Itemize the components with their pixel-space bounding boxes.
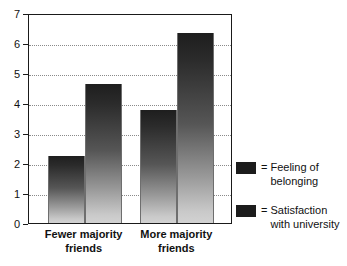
bar — [85, 84, 122, 224]
y-axis-tick-label: 7 — [14, 8, 23, 19]
legend-item: =Feeling of belonging — [236, 160, 347, 189]
bar-group-container — [29, 15, 231, 223]
y-axis: 76543210 — [0, 0, 28, 238]
legend-equals-sign: = — [261, 203, 267, 217]
bar — [140, 110, 177, 223]
y-axis-tick-label: 6 — [14, 38, 23, 49]
y-axis-tick-label: 1 — [14, 188, 23, 199]
y-axis-tick-label: 5 — [14, 68, 23, 79]
x-axis-labels: Fewer majorityfriendsMore majorityfriend… — [28, 228, 232, 266]
bar — [177, 33, 214, 223]
x-axis-label: More majorityfriends — [116, 228, 236, 256]
chart-legend: =Feeling of belonging=Satisfaction with … — [236, 160, 347, 245]
bar-chart-figure: 76543210 Fewer majorityfriendsMore major… — [0, 0, 347, 266]
legend-equals-sign: = — [261, 160, 267, 174]
legend-swatch — [236, 205, 256, 217]
legend-label: Satisfaction with university — [270, 203, 339, 232]
plot-area — [28, 14, 232, 224]
y-axis-tick-label: 2 — [14, 158, 23, 169]
y-axis-tick-label: 4 — [14, 98, 23, 109]
legend-item: =Satisfaction with university — [236, 203, 347, 232]
bar — [48, 156, 85, 224]
legend-label: Feeling of belonging — [270, 160, 318, 189]
legend-swatch — [236, 162, 256, 174]
y-axis-tick-label: 3 — [14, 128, 23, 139]
y-axis-tick-label: 0 — [14, 218, 23, 229]
